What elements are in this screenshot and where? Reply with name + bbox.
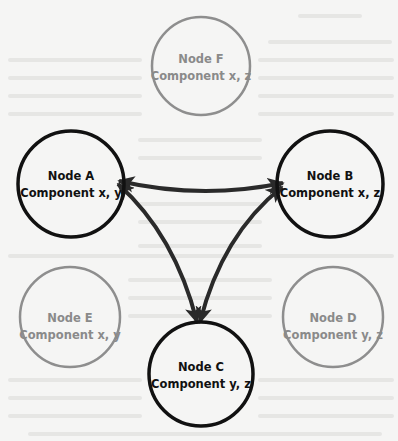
node-diagram: Node F Component x, z Node A Component x… [0, 0, 398, 441]
node-d[interactable]: Node D Component y, z [283, 267, 383, 367]
node-b-circle [277, 131, 383, 237]
node-a-title: Node A [48, 169, 95, 183]
node-e[interactable]: Node E Component x, y [19, 267, 121, 367]
diagram-canvas: Node F Component x, z Node A Component x… [0, 0, 398, 441]
node-f-circle [152, 17, 250, 115]
node-a[interactable]: Node A Component x, y [18, 131, 124, 237]
node-d-components: Component y, z [283, 328, 383, 342]
node-f-title: Node F [178, 52, 223, 66]
edge-b-c-arrow [200, 187, 282, 322]
edge-a-c-arrow [118, 184, 197, 322]
node-d-title: Node D [309, 311, 356, 325]
node-b[interactable]: Node B Component x, z [277, 131, 383, 237]
node-e-components: Component x, y [19, 328, 121, 342]
node-c[interactable]: Node C Component y, z [149, 322, 253, 426]
node-f[interactable]: Node F Component x, z [151, 17, 252, 115]
node-c-circle [149, 322, 253, 426]
node-c-title: Node C [178, 360, 224, 374]
node-b-title: Node B [307, 169, 353, 183]
node-a-components: Component x, y [20, 186, 122, 200]
node-b-components: Component x, z [280, 186, 381, 200]
node-c-components: Component y, z [151, 377, 251, 391]
node-e-title: Node E [47, 311, 93, 325]
edge-a-b-arrow [119, 181, 283, 191]
node-a-circle [18, 131, 124, 237]
node-f-components: Component x, z [151, 69, 252, 83]
